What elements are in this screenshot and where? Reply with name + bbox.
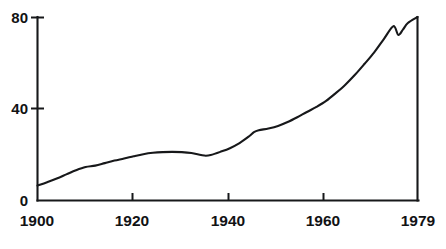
line-chart: 80 40 0 1900 1920 1940 1960 1979 (0, 0, 446, 249)
x-tick-label-1960: 1960 (289, 213, 357, 229)
x-tick-label-1900: 1900 (3, 213, 71, 229)
y-tick-label-40: 40 (0, 101, 28, 116)
x-tick-label-1940: 1940 (194, 213, 262, 229)
x-tick-label-1979: 1979 (384, 213, 446, 229)
y-tick-label-80: 80 (0, 10, 28, 25)
data-series-line (38, 17, 418, 186)
y-tick-label-0: 0 (0, 193, 28, 208)
x-tick-label-1920: 1920 (98, 213, 166, 229)
